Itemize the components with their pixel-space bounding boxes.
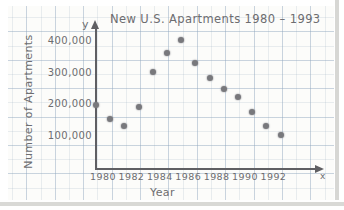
data-point (93, 102, 99, 108)
x-tick-label: 1992 (261, 171, 287, 182)
x-tick-label: 1988 (204, 171, 230, 182)
paper-edge-top (0, 0, 344, 6)
x-tick-label: 1986 (175, 171, 201, 182)
data-point (150, 69, 156, 75)
data-point (263, 123, 269, 129)
x-tick-label: 1990 (232, 171, 258, 182)
data-point (207, 75, 213, 81)
x-tick-label: 1984 (147, 171, 173, 182)
paper-edge-right (334, 0, 344, 210)
data-point (178, 37, 184, 43)
data-point (107, 116, 113, 122)
data-point (121, 123, 127, 129)
data-point (249, 109, 255, 115)
x-tick-label: 1980 (90, 171, 116, 182)
x-tick-label: 1982 (119, 171, 145, 182)
paper-edge-bottom (0, 200, 344, 210)
x-tick-labels: 1980198219841986198819901992 (0, 0, 344, 210)
data-point (164, 50, 170, 56)
data-point (136, 104, 142, 110)
data-point (278, 132, 284, 138)
paper-edge-left (0, 0, 8, 210)
data-point (221, 86, 227, 92)
data-point (192, 60, 198, 66)
graph-paper-sheet: New U.S. Apartments 1980 – 1993 y x Numb… (0, 0, 344, 210)
data-point (235, 94, 241, 100)
